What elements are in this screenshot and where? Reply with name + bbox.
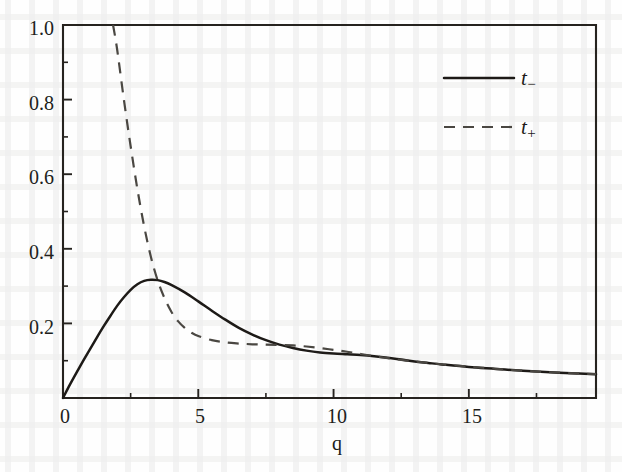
figure-container: 1.0 0.8 0.6 0.4 0.2 0 5 10 15 q t− t+: [0, 0, 622, 472]
ticks-group: [63, 25, 536, 398]
y-tick-label-0.4: 0.4: [4, 241, 54, 264]
y-tick-label-0.6: 0.6: [4, 166, 54, 189]
legend-label-t-minus-sub: −: [527, 76, 535, 92]
x-tick-label-5: 5: [190, 405, 210, 428]
legend-lines-group: [444, 78, 514, 127]
x-tick-label-10: 10: [320, 405, 354, 428]
series-curve-t_minus: [63, 280, 596, 398]
curves-group: [63, 25, 596, 398]
y-tick-label-1.0: 1.0: [4, 17, 54, 40]
legend-label-t-plus: t+: [521, 115, 536, 142]
legend-label-t-plus-text: t: [521, 115, 527, 139]
x-axis-title: q: [320, 432, 354, 455]
x-tick-label-0: 0: [55, 405, 75, 428]
legend-label-t-minus: t−: [521, 66, 536, 93]
y-tick-label-0.8: 0.8: [4, 92, 54, 115]
axis-box: [63, 25, 596, 398]
x-tick-label-15: 15: [455, 405, 489, 428]
legend-label-t-plus-sub: +: [527, 125, 535, 141]
legend-label-t-minus-text: t: [521, 66, 527, 90]
y-tick-label-0.2: 0.2: [4, 316, 54, 339]
axes-group: [63, 25, 596, 398]
